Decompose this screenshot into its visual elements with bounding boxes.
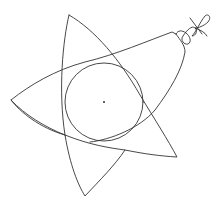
- star-arm-left-bottom: [11, 100, 65, 135]
- star-outline: [11, 15, 185, 196]
- star-figure: [0, 0, 220, 210]
- center-dot: [103, 101, 105, 103]
- flourish-loops: [176, 15, 210, 44]
- drawing-canvas: [0, 0, 220, 210]
